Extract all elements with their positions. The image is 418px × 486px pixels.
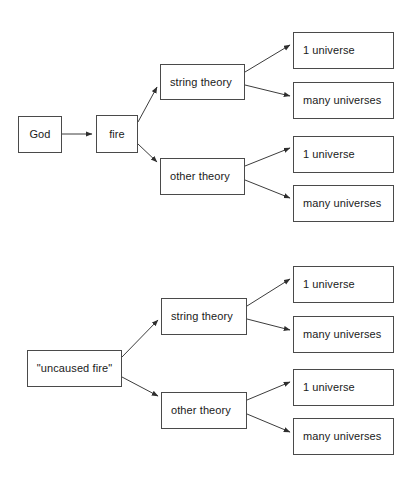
node-1-universe-string-bottom[interactable]: 1 universe xyxy=(293,266,394,303)
node-1-universe-other-bottom-label: 1 universe xyxy=(303,381,355,394)
edge-string-theory-to-1-universe-2 xyxy=(247,279,290,306)
node-1-universe-string-top-label: 1 universe xyxy=(303,44,355,57)
edge-string-theory-to-many-universes-2 xyxy=(247,319,290,330)
edge-fire-to-other-theory xyxy=(138,144,157,162)
edge-other-theory-to-1-universe xyxy=(245,148,290,166)
edge-other-theory-to-many-universes-2 xyxy=(247,414,290,432)
edge-string-theory-to-many-universes xyxy=(245,85,290,96)
node-fire-label: fire xyxy=(109,128,125,141)
node-string-theory-bottom-label: string theory xyxy=(171,310,233,323)
node-god[interactable]: God xyxy=(18,116,62,153)
node-string-theory-bottom[interactable]: string theory xyxy=(161,298,247,335)
node-1-universe-string-bottom-label: 1 universe xyxy=(303,278,355,291)
node-string-theory-top[interactable]: string theory xyxy=(160,64,245,100)
node-uncaused-fire-label: "uncaused fire" xyxy=(37,362,112,375)
edge-fire-to-string-theory xyxy=(138,87,157,122)
node-many-universes-other-bottom-label: many universes xyxy=(303,430,381,443)
edge-string-theory-to-1-universe xyxy=(245,45,290,72)
node-other-theory-bottom-label: other theory xyxy=(171,404,231,417)
edge-uncaused-fire-to-string-theory xyxy=(122,320,158,357)
node-other-theory-bottom[interactable]: other theory xyxy=(161,392,247,429)
node-many-universes-string-top[interactable]: many universes xyxy=(293,82,394,119)
node-1-universe-string-top[interactable]: 1 universe xyxy=(293,32,394,69)
node-1-universe-other-top-label: 1 universe xyxy=(303,148,355,161)
edge-other-theory-to-many-universes xyxy=(245,180,290,198)
node-other-theory-top-label: other theory xyxy=(170,170,230,183)
node-other-theory-top[interactable]: other theory xyxy=(160,158,245,195)
node-god-label: God xyxy=(29,128,50,141)
node-many-universes-other-bottom[interactable]: many universes xyxy=(293,418,394,455)
node-string-theory-top-label: string theory xyxy=(170,76,232,89)
node-many-universes-other-top-label: many universes xyxy=(303,197,381,210)
node-fire[interactable]: fire xyxy=(96,115,138,153)
edge-uncaused-fire-to-other-theory xyxy=(122,377,158,396)
node-many-universes-string-bottom-label: many universes xyxy=(303,328,381,341)
diagram-canvas: God fire string theory other theory 1 un… xyxy=(0,0,418,486)
node-many-universes-string-top-label: many universes xyxy=(303,94,381,107)
node-many-universes-other-top[interactable]: many universes xyxy=(293,185,394,222)
node-1-universe-other-top[interactable]: 1 universe xyxy=(293,136,394,173)
node-many-universes-string-bottom[interactable]: many universes xyxy=(293,316,394,353)
node-uncaused-fire[interactable]: "uncaused fire" xyxy=(27,350,122,387)
node-1-universe-other-bottom[interactable]: 1 universe xyxy=(293,369,394,406)
edge-other-theory-to-1-universe-2 xyxy=(247,382,290,400)
